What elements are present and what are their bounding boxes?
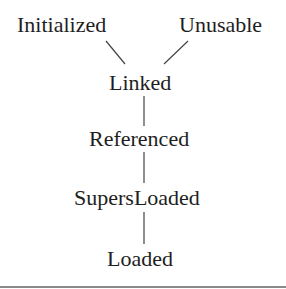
edge-initialized-linked bbox=[106, 41, 125, 64]
node-unusable: Unusable bbox=[179, 14, 262, 36]
node-referenced: Referenced bbox=[89, 128, 189, 150]
bottom-divider bbox=[0, 286, 286, 288]
edge-unusable-linked bbox=[164, 41, 188, 64]
node-loaded: Loaded bbox=[107, 248, 173, 270]
node-initialized: Initialized bbox=[17, 14, 106, 36]
node-linked: Linked bbox=[109, 72, 171, 94]
node-supersloaded: SupersLoaded bbox=[74, 187, 200, 209]
